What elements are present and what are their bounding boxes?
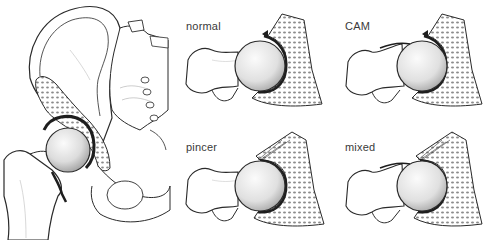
hip-joint-mixed-svg [330, 120, 484, 240]
hip-joint-pincer-svg [172, 120, 327, 240]
hip-impingement-figure: normal CAM [0, 0, 484, 240]
panel-mixed: mixed [330, 120, 484, 240]
hip-joint-normal-svg [172, 0, 327, 120]
pelvis-overview-illustration [0, 0, 180, 240]
panel-pincer: pincer [172, 120, 327, 240]
pelvis-svg [0, 0, 180, 240]
hip-joint-cam-svg [330, 0, 484, 120]
panel-cam: CAM [330, 0, 484, 120]
panel-normal: normal [172, 0, 327, 120]
